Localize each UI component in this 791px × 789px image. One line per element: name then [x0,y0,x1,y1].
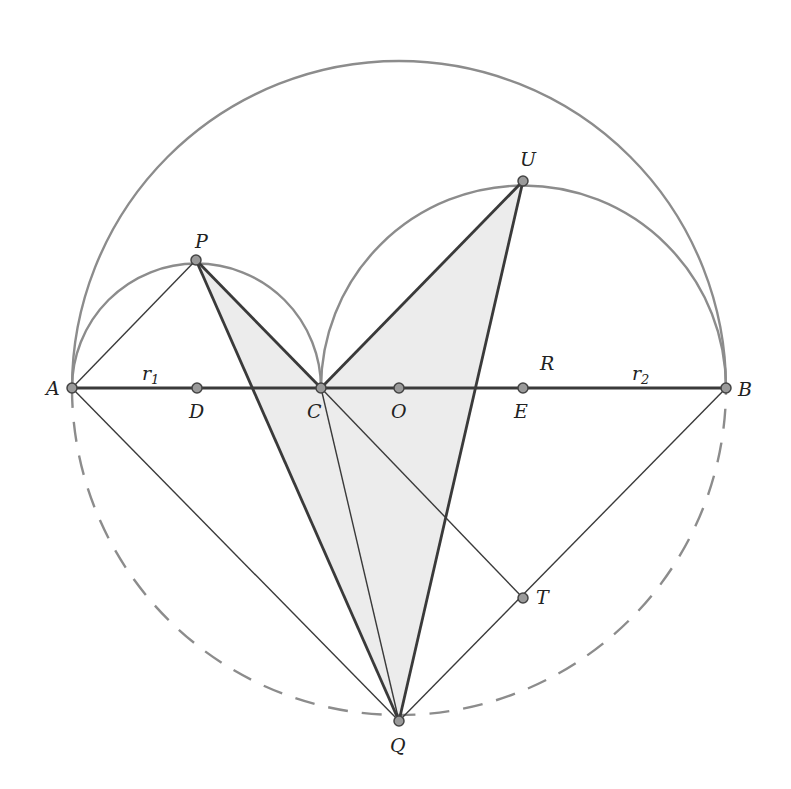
point-c [316,383,326,393]
point-b [721,383,731,393]
label-c: C [307,400,322,422]
label-o: O [391,400,407,422]
label-r1: r1 [142,362,159,387]
label-a: A [44,377,60,399]
label-p: P [194,230,209,252]
label-q: Q [390,734,406,756]
point-e [518,383,528,393]
shaded-region-pcuq [196,181,523,721]
label-d: D [188,400,204,422]
label-b: B [737,378,752,400]
label-r2: r2 [632,362,649,387]
point-d [192,383,202,393]
point-q [394,716,404,726]
point-p [191,255,201,265]
point-a [67,383,77,393]
label-t: T [536,586,550,608]
label-e: E [513,400,528,422]
arbelos-diagram: A D C O E B P U Q T r1 r2 R [0,0,791,789]
label-r1-sub: 1 [151,372,159,387]
point-t [518,593,528,603]
point-u [518,176,528,186]
label-u: U [520,148,537,170]
label-big-r: R [539,352,554,374]
label-r2-sub: 2 [640,372,649,387]
point-o [394,383,404,393]
